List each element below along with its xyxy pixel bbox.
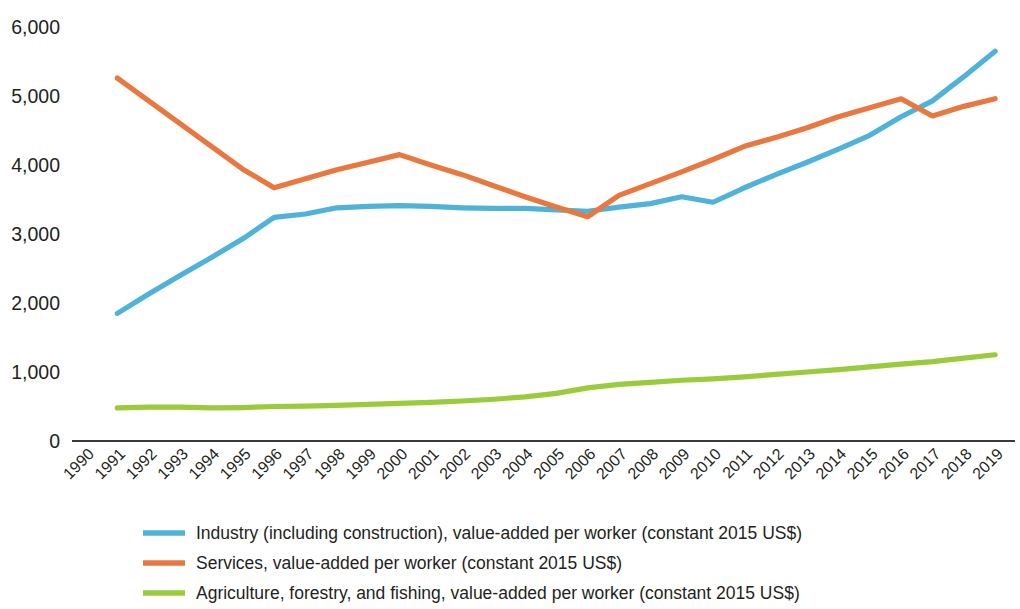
x-tick-label: 1991 xyxy=(91,445,128,482)
x-tick-label: 2004 xyxy=(499,445,536,482)
x-tick-label: 2000 xyxy=(373,445,410,482)
series-line xyxy=(117,51,995,313)
x-tick-label: 1996 xyxy=(248,445,285,482)
x-tick-label: 1998 xyxy=(311,445,348,482)
x-tick-label: 2018 xyxy=(938,445,975,482)
x-tick-label: 1995 xyxy=(217,445,254,482)
x-tick-label: 1990 xyxy=(60,445,97,482)
series-line xyxy=(117,78,995,217)
legend-label: Services, value-added per worker (consta… xyxy=(196,553,622,573)
x-tick-label: 1993 xyxy=(154,445,191,482)
x-tick-label: 2003 xyxy=(467,445,504,482)
x-tick-label: 2019 xyxy=(969,445,1006,482)
x-tick-label: 2014 xyxy=(812,445,849,482)
x-tick-label: 2013 xyxy=(781,445,818,482)
x-tick-label: 2010 xyxy=(687,445,724,482)
x-tick-label: 2007 xyxy=(593,445,630,482)
x-tick-label: 2016 xyxy=(875,445,912,482)
x-tick-label: 2001 xyxy=(405,445,442,482)
x-tick-label: 2005 xyxy=(530,445,567,482)
x-tick-label: 1999 xyxy=(342,445,379,482)
x-tick-label: 2012 xyxy=(750,445,787,482)
y-tick-label: 6,000 xyxy=(11,16,60,38)
series-line xyxy=(117,355,995,408)
legend-label: Agriculture, forestry, and fishing, valu… xyxy=(196,583,800,603)
series-lines xyxy=(117,51,995,408)
y-tick-label: 4,000 xyxy=(11,154,60,176)
x-tick-label: 2008 xyxy=(624,445,661,482)
chart-canvas: 01,0002,0003,0004,0005,0006,000 19901991… xyxy=(0,0,1020,609)
y-tick-label: 2,000 xyxy=(11,292,60,314)
x-tick-label: 1997 xyxy=(279,445,316,482)
legend-label: Industry (including construction), value… xyxy=(196,523,802,543)
y-tick-label: 5,000 xyxy=(11,85,60,107)
x-tick-label: 2011 xyxy=(719,445,755,481)
y-tick-label: 3,000 xyxy=(11,223,60,245)
x-tick-label: 1992 xyxy=(123,445,160,482)
x-tick-label: 2009 xyxy=(656,445,693,482)
x-tick-label: 2017 xyxy=(906,445,943,482)
x-tick-label: 1994 xyxy=(185,445,222,482)
line-chart: 01,0002,0003,0004,0005,0006,000 19901991… xyxy=(0,0,1020,609)
y-axis-tick-labels: 01,0002,0003,0004,0005,0006,000 xyxy=(11,16,60,452)
x-tick-label: 2006 xyxy=(562,445,599,482)
x-tick-label: 2015 xyxy=(844,445,881,482)
x-tick-label: 2002 xyxy=(436,445,473,482)
y-tick-label: 1,000 xyxy=(11,361,60,383)
x-axis-tick-labels: 1990199119921993199419951996199719981999… xyxy=(60,445,1006,482)
y-tick-label: 0 xyxy=(49,430,60,452)
chart-legend: Industry (including construction), value… xyxy=(143,523,802,603)
